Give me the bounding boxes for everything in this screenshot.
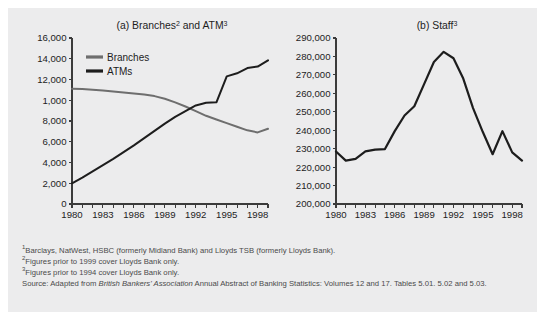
chart-a-y-tick-label: 6,000 — [42, 136, 66, 147]
chart-b-x-tick-label: 1998 — [502, 209, 523, 220]
chart-a-y-tick-label: 8,000 — [42, 115, 66, 126]
chart-b-x-tick-label: 1989 — [413, 209, 434, 220]
chart-a-y-tick-label: 4,000 — [42, 157, 66, 168]
footnote-2: 2Figures prior to 1999 cover Lloyds Bank… — [22, 257, 534, 268]
footnote-3: 3Figures prior to 1994 cover Lloyds Bank… — [22, 268, 534, 279]
chart-a-x-tick-label: 1983 — [92, 209, 113, 220]
source-suffix: Annual Abstract of Banking Statistics: V… — [193, 279, 487, 288]
chart-b-staff: (b) Staff3200,000210,000220,000230,00024… — [270, 8, 536, 240]
chart-a-x-tick-label: 1989 — [154, 209, 175, 220]
source-note: Source: Adapted from British Bankers' As… — [22, 279, 534, 290]
chart-a-series-branches — [72, 89, 268, 133]
chart-a-svg: (a) Branches2 and ATM302,0004,0006,0008,… — [10, 8, 272, 240]
source-prefix: Source: Adapted from — [22, 279, 99, 288]
chart-b-y-tick-label: 200,000 — [296, 198, 331, 209]
source-publisher: British Bankers' Association — [99, 279, 193, 288]
chart-a-title-sup-2: 3 — [224, 20, 228, 27]
chart-b-y-tick-label: 220,000 — [296, 162, 331, 173]
chart-b-y-tick-label: 260,000 — [296, 88, 331, 99]
footnote-1: 1Barclays, NatWest, HSBC (formerly Midla… — [22, 246, 534, 257]
chart-b-y-tick-label: 290,000 — [296, 32, 331, 43]
chart-a-x-tick-label: 1998 — [247, 209, 268, 220]
chart-a-y-tick-label: 2,000 — [42, 178, 66, 189]
footnote-1-text: Barclays, NatWest, HSBC (formerly Midlan… — [25, 246, 335, 255]
chart-a-x-tick-label: 1995 — [216, 209, 237, 220]
chart-a-legend-label-branches: Branches — [107, 52, 149, 63]
chart-a-legend-label-atms: ATMs — [107, 66, 132, 77]
chart-a-y-tick-label: 14,000 — [37, 53, 66, 64]
chart-a-title: (a) Branches2 and ATM3 — [117, 20, 228, 32]
chart-b-y-tick-label: 280,000 — [296, 51, 331, 62]
figure-panel: (a) Branches2 and ATM302,0004,0006,0008,… — [8, 8, 537, 312]
chart-b-y-tick-label: 230,000 — [296, 143, 331, 154]
chart-b-x-tick-label: 1992 — [443, 209, 464, 220]
chart-b-x-tick-label: 1980 — [325, 209, 346, 220]
chart-b-title-sup-1: 3 — [453, 20, 457, 27]
chart-a-x-tick-label: 1992 — [185, 209, 206, 220]
chart-b-axis-lines — [336, 38, 522, 204]
chart-b-title: (b) Staff3 — [417, 20, 458, 32]
chart-b-y-tick-label: 250,000 — [296, 106, 331, 117]
chart-a-branches-and-atm: (a) Branches2 and ATM302,0004,0006,0008,… — [10, 8, 272, 240]
figure-notes: 1Barclays, NatWest, HSBC (formerly Midla… — [22, 246, 534, 290]
chart-b-svg: (b) Staff3200,000210,000220,000230,00024… — [270, 8, 536, 240]
chart-b-series-staff — [336, 52, 522, 161]
chart-a-y-tick-label: 16,000 — [37, 32, 66, 43]
chart-b-y-tick-label: 270,000 — [296, 69, 331, 80]
chart-b-x-tick-label: 1983 — [355, 209, 376, 220]
footnote-3-text: Figures prior to 1994 cover Lloyds Bank … — [25, 268, 179, 277]
chart-a-x-tick-label: 1980 — [61, 209, 82, 220]
charts-row: (a) Branches2 and ATM302,0004,0006,0008,… — [8, 8, 537, 240]
chart-a-x-tick-label: 1986 — [123, 209, 144, 220]
chart-a-y-tick-label: 0 — [61, 198, 66, 209]
chart-b-x-tick-label: 1995 — [472, 209, 493, 220]
chart-b-y-tick-label: 210,000 — [296, 180, 331, 191]
chart-a-series-atms — [72, 60, 268, 183]
chart-b-x-tick-label: 1986 — [384, 209, 405, 220]
footnote-2-text: Figures prior to 1999 cover Lloyds Bank … — [25, 257, 179, 266]
chart-a-y-tick-label: 1,000 — [42, 95, 66, 106]
chart-a-title-sup-1: 2 — [176, 20, 180, 27]
chart-a-y-tick-label: 12,000 — [37, 74, 66, 85]
chart-b-y-tick-label: 240,000 — [296, 125, 331, 136]
